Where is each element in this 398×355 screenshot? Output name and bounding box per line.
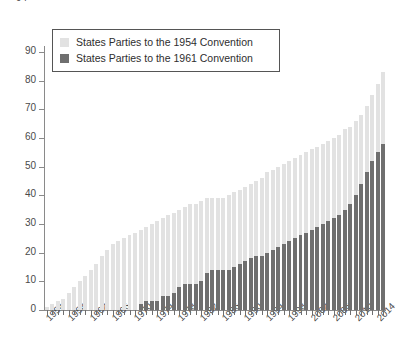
x-tick-mark-1984 — [212, 310, 213, 315]
bar-segment-1954 — [343, 129, 347, 209]
x-tick-mark-1959 — [74, 310, 75, 315]
bar-segment-1961 — [166, 296, 170, 310]
x-tick-mark-2009 — [350, 310, 351, 315]
bar-segment-1954 — [111, 244, 115, 310]
y-tick-label: 90 — [25, 45, 36, 56]
y-tick-label: 30 — [25, 217, 36, 228]
bar-2014 — [376, 84, 380, 310]
legend-label-1954: States Parties to the 1954 Convention — [76, 36, 253, 48]
x-tick-mark-2013 — [372, 310, 373, 315]
bar-segment-1954 — [315, 147, 319, 227]
bar-segment-1954 — [61, 299, 65, 310]
y-axis-clipped-label: 94 — [16, 0, 27, 3]
bar-1988 — [232, 192, 236, 310]
bar-1996 — [276, 167, 280, 310]
bar-segment-1961 — [282, 244, 286, 310]
bar-segment-1961 — [139, 304, 143, 310]
bar-segment-1954 — [94, 264, 98, 310]
bar-segment-1954 — [150, 224, 154, 301]
bar-segment-1961 — [260, 256, 264, 310]
bar-segment-1954 — [232, 192, 236, 267]
bar-1973 — [150, 224, 154, 310]
bar-segment-1954 — [376, 84, 380, 153]
bar-segment-1954 — [271, 170, 275, 250]
x-tick-mark-2015 — [383, 310, 384, 315]
bar-2003 — [315, 147, 319, 310]
bar-segment-1954 — [287, 161, 291, 241]
bar-2006 — [332, 138, 336, 310]
bar-1974 — [155, 221, 159, 310]
bar-segment-1954 — [172, 213, 176, 293]
bar-1980 — [188, 204, 192, 310]
x-tick-mark-2003 — [317, 310, 318, 315]
y-tick-label: 80 — [25, 74, 36, 85]
bar-segment-1954 — [359, 115, 363, 184]
bar-1964 — [100, 256, 104, 310]
bar-segment-1954 — [188, 204, 192, 284]
y-tick-label: 50 — [25, 160, 36, 171]
bar-1982 — [199, 201, 203, 310]
bar-segment-1954 — [155, 221, 159, 301]
bar-1956 — [56, 301, 60, 310]
bar-segment-1954 — [50, 304, 54, 310]
x-tick-mark-2001 — [306, 310, 307, 315]
bar-2013 — [370, 95, 374, 310]
bar-1961 — [83, 276, 87, 310]
bar-segment-1961 — [304, 233, 308, 310]
bar-segment-1954 — [105, 250, 109, 310]
bar-segment-1954 — [177, 210, 181, 287]
bar-segment-1961 — [370, 161, 374, 310]
bar-segment-1961 — [359, 184, 363, 310]
bar-1963 — [94, 264, 98, 310]
bar-segment-1954 — [122, 238, 126, 310]
bar-1986 — [221, 198, 225, 310]
x-tick-mark-1987 — [229, 310, 230, 315]
bar-2008 — [343, 129, 347, 310]
bar-2002 — [310, 149, 314, 310]
x-tick-mark-1995 — [273, 310, 274, 315]
y-tick-label: 10 — [25, 274, 36, 285]
bar-1978 — [177, 210, 181, 310]
bar-segment-1954 — [216, 198, 220, 270]
bar-segment-1954 — [83, 276, 87, 310]
bar-segment-1961 — [293, 238, 297, 310]
bar-segment-1961 — [221, 270, 225, 310]
y-tick-label: 20 — [25, 246, 36, 257]
bar-2010 — [354, 121, 358, 310]
bar-segment-1961 — [161, 296, 165, 310]
bar-segment-1954 — [276, 167, 280, 247]
x-tick-mark-1991 — [251, 310, 252, 315]
bar-segment-1961 — [276, 247, 280, 310]
bar-segment-1961 — [254, 256, 258, 310]
legend-item-1954: States Parties to the 1954 Convention — [60, 35, 272, 49]
bar-2012 — [365, 106, 369, 310]
bar-segment-1954 — [133, 233, 137, 310]
bar-segment-1954 — [205, 198, 209, 273]
bar-segment-1954 — [78, 281, 82, 310]
bar-2009 — [348, 127, 352, 310]
bar-segment-1961 — [321, 224, 325, 310]
bar-1989 — [238, 190, 242, 310]
bar-1977 — [172, 213, 176, 310]
chart-legend: States Parties to the 1954 Convention St… — [52, 29, 280, 72]
x-tick-mark-1963 — [96, 310, 97, 315]
bar-1954 — [45, 307, 49, 310]
bar-segment-1961 — [238, 264, 242, 310]
bar-segment-1961 — [348, 204, 352, 310]
bar-segment-1954 — [348, 127, 352, 204]
bar-segment-1961 — [177, 287, 181, 310]
bar-segment-1961 — [271, 250, 275, 310]
bar-1955 — [50, 304, 54, 310]
x-tick-mark-1955 — [52, 310, 53, 315]
bar-2005 — [326, 141, 330, 310]
bar-segment-1961 — [315, 227, 319, 310]
bar-segment-1954 — [310, 149, 314, 229]
bar-2007 — [337, 135, 341, 310]
bar-1985 — [216, 198, 220, 310]
bar-segment-1954 — [332, 138, 336, 218]
bar-segment-1961 — [210, 270, 214, 310]
y-tick-label: 60 — [25, 131, 36, 142]
bar-1970 — [133, 233, 137, 310]
y-tick-mark — [39, 310, 44, 311]
bar-segment-1954 — [56, 301, 60, 310]
